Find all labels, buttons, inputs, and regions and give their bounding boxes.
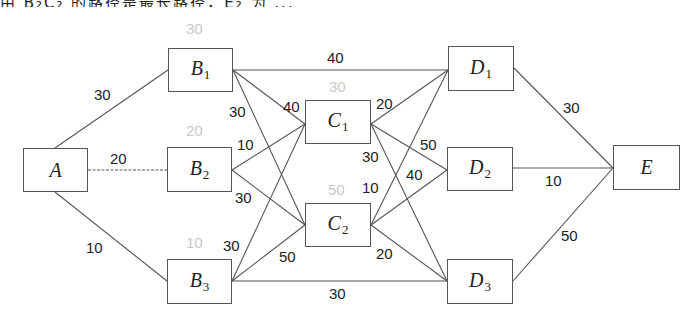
edge-weight-c1-d1: 20 (376, 96, 393, 111)
edge-weight-d1-e: 30 (563, 100, 580, 115)
node-b3: B3 (167, 259, 232, 304)
node-b2: B2 (167, 147, 232, 192)
capacity-c2: 50 (328, 182, 345, 197)
node-letter: C (328, 212, 341, 234)
node-label: C1 (328, 109, 349, 135)
node-label: D1 (470, 56, 492, 82)
edge-layer (0, 0, 699, 322)
edge-weight-b3-c1: 30 (223, 238, 240, 253)
edge-weight-b1-c2: 30 (229, 104, 246, 119)
edge-weight-d3-e: 50 (561, 228, 578, 243)
node-subscript: 2 (203, 167, 210, 182)
capacity-b2: 20 (186, 123, 203, 138)
edge-weight-b3-c2: 50 (279, 249, 296, 264)
node-label: B3 (190, 269, 210, 295)
node-subscript: 2 (484, 166, 491, 181)
node-label: A (49, 159, 61, 182)
node-letter: D (469, 156, 483, 178)
edge-weight-a-b3: 10 (86, 240, 103, 255)
edge-weight-a-b2: 20 (110, 151, 127, 166)
edge-weight-c2-d2: 40 (406, 167, 423, 182)
node-letter: B (190, 157, 202, 179)
node-c1: C1 (305, 100, 371, 144)
node-c2: C2 (305, 203, 371, 247)
node-label: C2 (328, 212, 349, 238)
node-label: D2 (469, 156, 491, 182)
node-e: E (613, 145, 680, 190)
edge-weight-b1-c1: 40 (283, 99, 300, 114)
node-subscript: 1 (342, 119, 349, 134)
edge-weight-b2-c1: 10 (237, 137, 254, 152)
edge-weight-d2-e: 10 (545, 173, 562, 188)
node-subscript: 2 (342, 222, 349, 237)
node-d3: D3 (447, 259, 513, 304)
node-letter: C (328, 109, 341, 131)
node-subscript: 3 (203, 279, 210, 294)
capacity-b3: 10 (186, 235, 203, 250)
edge-weight-b3-d3: 30 (329, 286, 346, 301)
capacity-b1: 30 (186, 21, 203, 36)
edge-d1-e (514, 68, 613, 168)
edge-weight-b2-c2: 30 (235, 190, 252, 205)
edge-a-b3 (55, 192, 167, 281)
edge-weight-a-b1: 30 (94, 87, 111, 102)
node-subscript: 1 (204, 67, 211, 82)
node-letter: B (190, 269, 202, 291)
network-diagram: 由 B₂C₂ 的路径是最长路径，E₂ 为 ... AB1B2B3C1C2D1D2… (0, 0, 699, 322)
edge-d3-e (513, 168, 613, 281)
node-label: E (640, 156, 652, 179)
node-label: B2 (190, 157, 210, 183)
node-letter: B (191, 57, 203, 79)
node-d2: D2 (447, 147, 513, 191)
node-letter: D (470, 56, 484, 78)
node-label: B1 (191, 57, 211, 83)
node-d1: D1 (448, 46, 514, 91)
edge-a-b1 (55, 70, 168, 148)
node-b1: B1 (168, 48, 233, 92)
node-subscript: 1 (485, 66, 492, 81)
node-letter: A (49, 159, 61, 181)
edge-weight-c2-d1: 10 (362, 180, 379, 195)
edge-weight-c1-d2: 50 (420, 137, 437, 152)
edge-weight-b1-d1: 40 (327, 50, 344, 65)
node-a: A (23, 148, 88, 192)
node-letter: D (469, 269, 483, 291)
node-subscript: 3 (484, 279, 491, 294)
node-letter: E (640, 156, 652, 178)
capacity-c1: 30 (329, 79, 346, 94)
edge-weight-c2-d3: 20 (376, 246, 393, 261)
edge-weight-c1-d3: 30 (362, 149, 379, 164)
node-label: D3 (469, 269, 491, 295)
